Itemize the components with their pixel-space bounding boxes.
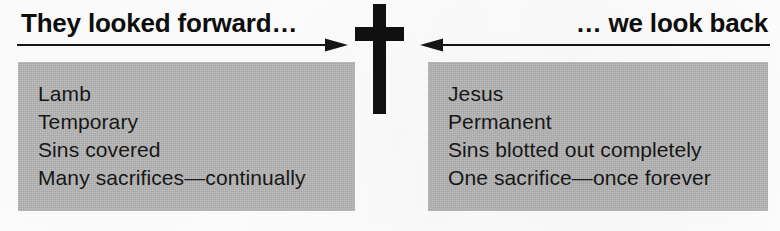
panel-left-line: Sins covered	[38, 136, 355, 164]
panel-right-line: Sins blotted out completely	[448, 136, 768, 164]
arrow-right-icon	[17, 38, 348, 52]
heading-right: … we look back	[576, 10, 768, 36]
cross-vertical-bar	[373, 4, 386, 114]
heading-left: They looked forward…	[21, 10, 297, 36]
comparison-diagram: They looked forward… … we look back Lamb…	[0, 0, 780, 231]
panel-right-line: Jesus	[448, 80, 768, 108]
panel-right-line: Permanent	[448, 108, 768, 136]
panel-left-line: Lamb	[38, 80, 355, 108]
panel-left: Lamb Temporary Sins covered Many sacrifi…	[18, 62, 355, 211]
panel-right: Jesus Permanent Sins blotted out complet…	[428, 62, 768, 211]
arrow-left-icon	[417, 38, 770, 52]
panel-left-line: Many sacrifices—continually	[38, 164, 355, 192]
panel-right-line: One sacrifice—once forever	[448, 164, 768, 192]
cross-horizontal-bar	[355, 27, 404, 41]
cross-icon	[355, 4, 404, 114]
panel-left-line: Temporary	[38, 108, 355, 136]
